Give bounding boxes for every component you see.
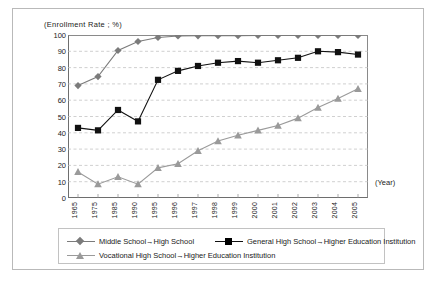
y-tick-label: 20 <box>26 161 66 170</box>
legend-label: Vocational High School→Higher Education … <box>99 251 275 260</box>
y-tick-label: 40 <box>26 128 66 137</box>
x-tick-label: 2004 <box>331 202 338 218</box>
x-tick-label: 2002 <box>291 202 298 218</box>
y-tick-label: 30 <box>26 145 66 154</box>
legend-item-middle-school[interactable]: Middle School→High School <box>67 235 194 248</box>
legend-label: General High School→Higher Education Ins… <box>247 237 415 246</box>
x-tick-label: 2005 <box>351 202 358 218</box>
x-tick-label: 2003 <box>311 202 318 218</box>
plot-wrapper: 1009080706050403020100 19651975198519901… <box>68 35 368 198</box>
x-tick-label: 1998 <box>211 202 218 218</box>
x-tick-label: 1997 <box>191 202 198 218</box>
x-tick-label: 1985 <box>111 202 118 218</box>
chart-figure: (Enrollment Rate ; %) 100908070605040302… <box>0 0 440 285</box>
y-tick-label: 60 <box>26 96 66 105</box>
x-tick-label: 1975 <box>91 202 98 218</box>
triangle-marker-icon <box>67 250 95 261</box>
x-tick-label: 2001 <box>271 202 278 218</box>
y-tick-label: 50 <box>26 112 66 121</box>
legend-item-general-high-school[interactable]: General High School→Higher Education Ins… <box>215 235 415 248</box>
y-tick-label: 10 <box>26 177 66 186</box>
x-axis-unit-label: (Year) <box>375 178 395 187</box>
plot-svg <box>68 35 368 198</box>
chart-axis-title: (Enrollment Rate ; %) <box>44 20 122 29</box>
x-tick-label: 2000 <box>251 202 258 218</box>
y-tick-label: 100 <box>26 31 66 40</box>
y-tick-label: 70 <box>26 79 66 88</box>
diamond-marker-icon <box>67 236 95 247</box>
square-marker-icon <box>215 236 243 247</box>
y-tick-label: 90 <box>26 47 66 56</box>
x-tick-label: 1965 <box>71 202 78 218</box>
x-tick-label: 1995 <box>151 202 158 218</box>
y-tick-label: 80 <box>26 63 66 72</box>
x-tick-label: 1996 <box>171 202 178 218</box>
x-tick-label: 1990 <box>131 202 138 218</box>
y-tick-label: 0 <box>26 194 66 203</box>
legend: Middle School→High School General High S… <box>58 228 385 264</box>
legend-label: Middle School→High School <box>99 237 194 246</box>
x-tick-label: 1999 <box>231 202 238 218</box>
legend-item-vocational-high-school[interactable]: Vocational High School→Higher Education … <box>67 249 275 262</box>
